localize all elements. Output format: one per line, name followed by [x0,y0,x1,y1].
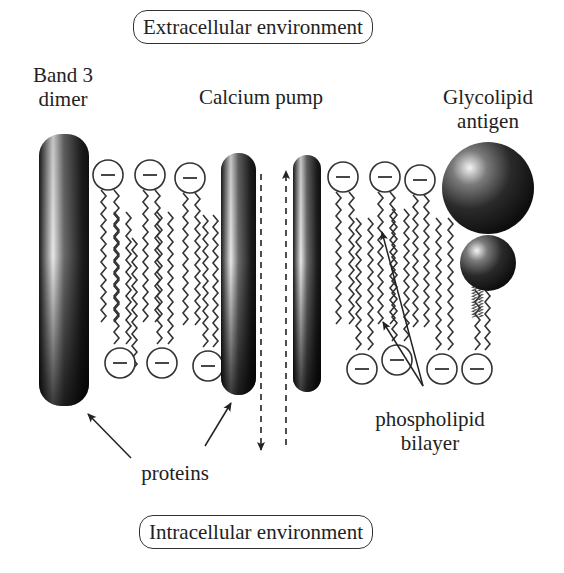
proteins-arrow-left [88,414,131,458]
small-sugar-sphere [460,235,516,291]
band3-dimer-protein [39,134,89,406]
band3-dimer-label: Band 3 dimer [18,63,108,111]
proteins-arrow-right [205,403,231,446]
glycolipid-label-line1: Glycolipid [422,85,554,109]
phospholipid-label-line1: phospholipid [355,407,505,431]
band3-label-line2: dimer [18,87,108,111]
band3-label-line1: Band 3 [18,63,108,87]
phospholipid-bilayer-label: phospholipid bilayer [355,407,505,455]
phospholipid-heads [93,160,492,384]
top-leaflet-tails [101,190,429,327]
glycolipid-antigen-label: Glycolipid antigen [422,85,554,133]
calcium-pump-label: Calcium pump [186,85,336,109]
large-sugar-sphere [442,142,534,234]
proteins-label: proteins [125,461,225,485]
extracellular-label: Extracellular environment [133,10,373,44]
calcium-pump-protein-left [221,153,256,395]
glycolipid-antigen [442,142,534,350]
phospholipid-label-line2: bilayer [355,431,505,455]
calcium-transport-arrows [261,171,286,450]
membrane-diagram: Extracellular environment Intracellular … [0,0,564,573]
intracellular-label: Intracellular environment [139,515,373,549]
calcium-pump-protein-right [293,155,321,392]
glycolipid-label-line2: antigen [422,109,554,133]
